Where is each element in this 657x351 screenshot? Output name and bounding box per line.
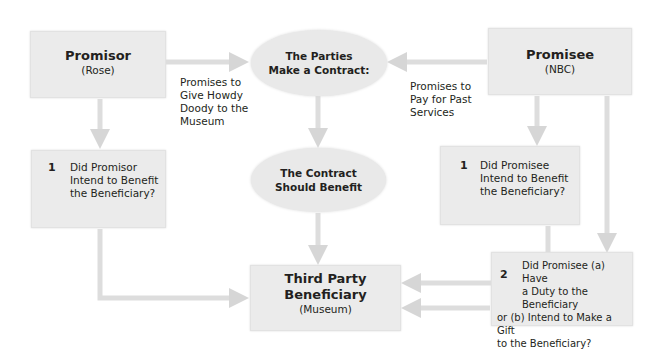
third-party-line1: Third Party (251, 271, 400, 287)
promisor-promise-label: Promises to Give Howdy Doody to the Muse… (180, 76, 248, 128)
promisee-question1-number: 1 (460, 159, 468, 172)
contract-benefit-ellipse: The Contract Should Benefit (251, 148, 386, 212)
promisor-box: Promisor (Rose) (30, 31, 166, 98)
parties-contract-line1: The Parties (269, 49, 370, 63)
promisee-promise-label: Promises to Pay for Past Services (410, 80, 472, 119)
parties-contract-ellipse: The Parties Make a Contract: (251, 30, 387, 96)
promisee-question2-text: Did Promisee (a) Have a Duty to the Bene… (497, 259, 632, 350)
third-party-line2: Beneficiary (251, 287, 400, 303)
promisee-box: Promisee (NBC) (488, 28, 632, 95)
promisor-question-text: Did Promisor Intend to Benefit the Benef… (70, 161, 158, 200)
third-party-beneficiary-box: Third Party Beneficiary (Museum) (250, 265, 401, 331)
promisee-question2-box: 2 Did Promisee (a) Have a Duty to the Be… (491, 252, 633, 326)
promisee-question1-box: 1 Did Promisee Intend to Benefit the Ben… (440, 146, 580, 225)
third-party-subtitle: (Museum) (251, 303, 400, 316)
promisor-title: Promisor (31, 48, 165, 64)
promisee-subtitle: (NBC) (489, 63, 631, 76)
contract-benefit-line1: The Contract (275, 166, 362, 180)
promisor-subtitle: (Rose) (31, 64, 165, 77)
promisor-question-box: 1 Did Promisor Intend to Benefit the Ben… (31, 150, 166, 228)
promisor-question-number: 1 (48, 161, 56, 174)
contract-benefit-line2: Should Benefit (275, 180, 362, 194)
promisee-question1-text: Did Promisee Intend to Benefit the Benef… (480, 159, 568, 198)
arrow-promisor-question-to-third-party (100, 229, 240, 298)
promisee-title: Promisee (489, 47, 631, 63)
parties-contract-line2: Make a Contract: (269, 63, 370, 77)
